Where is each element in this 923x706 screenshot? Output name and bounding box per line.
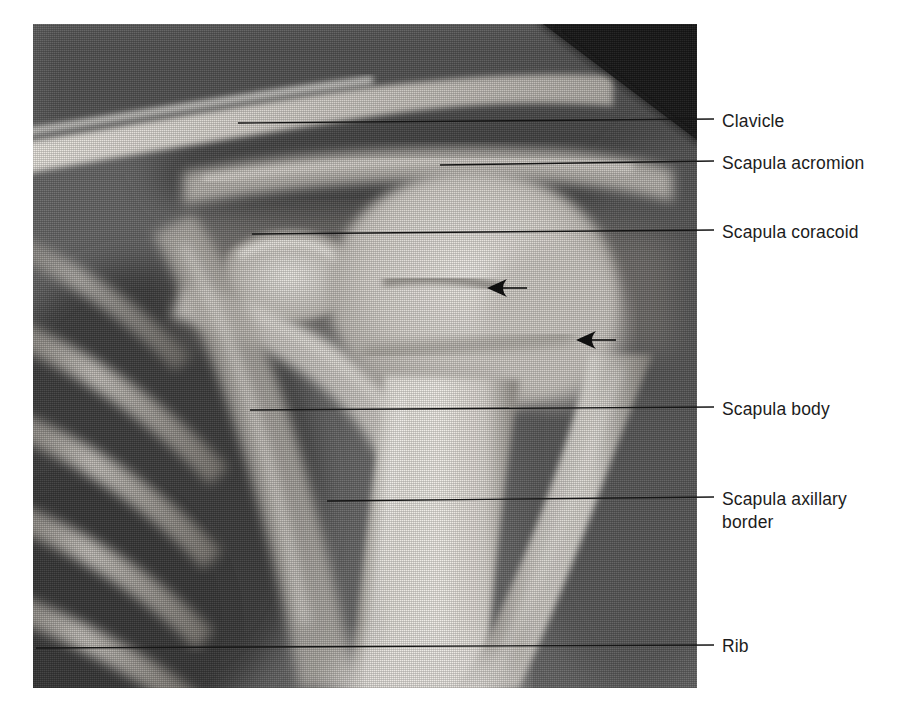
label-scapula-axillary-border: Scapula axillary border: [722, 488, 847, 534]
label-scapula-acromion: Scapula acromion: [722, 152, 864, 175]
xray-image: [33, 24, 697, 688]
label-clavicle: Clavicle: [722, 110, 784, 133]
annotated-radiograph-figure: Clavicle Scapula acromion Scapula coraco…: [0, 0, 923, 706]
label-scapula-coracoid: Scapula coracoid: [722, 221, 859, 244]
xray-rendering: [33, 24, 697, 688]
label-scapula-body: Scapula body: [722, 398, 830, 421]
label-rib: Rib: [722, 635, 749, 658]
